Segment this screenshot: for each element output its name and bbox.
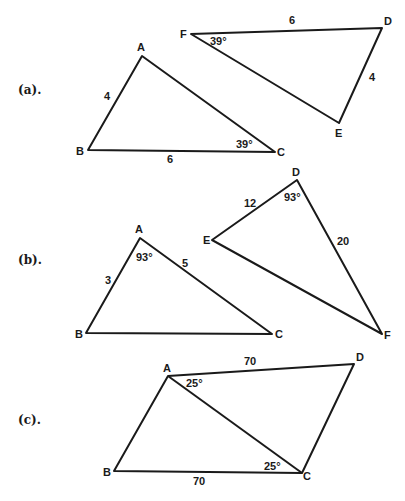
side-bc-length: 70 <box>193 475 205 487</box>
part-a: (a). A B C 4 6 39° F D E 6 4 39° <box>18 14 392 165</box>
geometry-figure: (a). A B C 4 6 39° F D E 6 4 39° (b). A … <box>0 0 405 501</box>
vertex-a: A <box>135 223 143 235</box>
part-c-label: (c). <box>18 413 41 427</box>
angle-c-measure: 39° <box>236 138 253 150</box>
vertex-d: D <box>384 15 392 27</box>
side-bc-length: 6 <box>167 153 173 165</box>
vertex-e: E <box>335 127 342 139</box>
vertex-f: F <box>180 28 187 40</box>
part-a-label: (a). <box>18 83 41 97</box>
angle-d-measure: 93° <box>284 191 301 203</box>
side-de-length: 4 <box>369 71 376 83</box>
side-ab-length: 4 <box>104 90 111 102</box>
vertex-e: E <box>203 234 210 246</box>
angle-dac-measure: 25° <box>186 377 203 389</box>
triangle-def-b <box>212 180 382 334</box>
vertex-a: A <box>137 41 145 53</box>
vertex-c: C <box>303 470 311 482</box>
vertex-c: C <box>277 146 285 158</box>
vertex-f: F <box>384 329 391 341</box>
side-ac-length: 5 <box>182 257 188 269</box>
angle-f-measure: 39° <box>210 35 227 47</box>
side-de-length: 12 <box>244 197 256 209</box>
vertex-c: C <box>275 328 283 340</box>
vertex-d: D <box>292 166 300 178</box>
angle-acb-measure: 25° <box>264 460 281 472</box>
side-df-length: 20 <box>337 235 349 247</box>
vertex-b: B <box>76 145 84 157</box>
angle-a-measure: 93° <box>136 251 153 263</box>
side-ad-length: 70 <box>244 355 256 367</box>
vertex-a: A <box>163 362 171 374</box>
part-b: (b). A B C 3 5 93° D E F 12 20 93° <box>18 166 391 341</box>
vertex-d: D <box>356 351 364 363</box>
quadrilateral-abcd <box>114 364 354 473</box>
diagonal-ac <box>168 376 302 473</box>
vertex-b: B <box>103 466 111 478</box>
side-fd-length: 6 <box>289 14 295 26</box>
part-c: (c). A D B C 70 70 25° 25° <box>18 351 364 487</box>
vertex-b: B <box>75 328 83 340</box>
triangle-abc-b <box>86 238 272 334</box>
part-b-label: (b). <box>18 253 42 267</box>
side-ab-length: 3 <box>105 274 111 286</box>
